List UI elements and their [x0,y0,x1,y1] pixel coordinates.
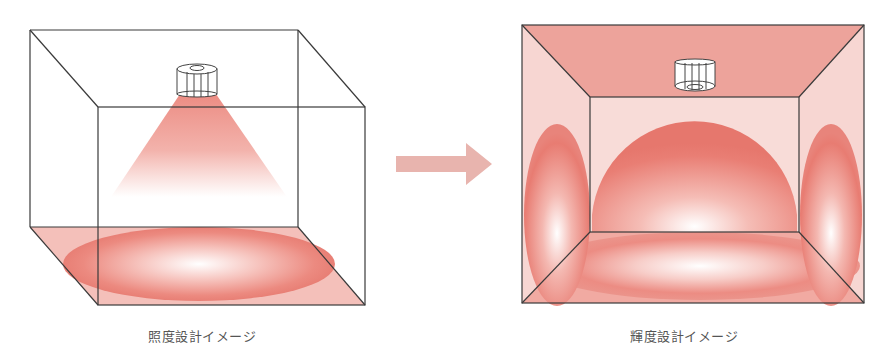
transition-arrow-icon [396,143,492,185]
floor-light-pool [63,227,335,301]
diagram-stage: 照度設計イメージ 輝度設計イメージ [0,0,890,358]
downlight-fixture-icon [177,64,217,97]
luminance-caption: 輝度設計イメージ [630,326,738,345]
right-wall-luminance [800,124,862,306]
illuminance-caption: 照度設計イメージ [148,326,256,345]
left-wall-luminance [524,124,590,306]
light-cone [111,94,287,197]
luminance-room [522,25,864,306]
illuminance-room [30,30,365,305]
downlight-fixture-icon [675,59,715,91]
diagram-canvas [0,0,890,358]
